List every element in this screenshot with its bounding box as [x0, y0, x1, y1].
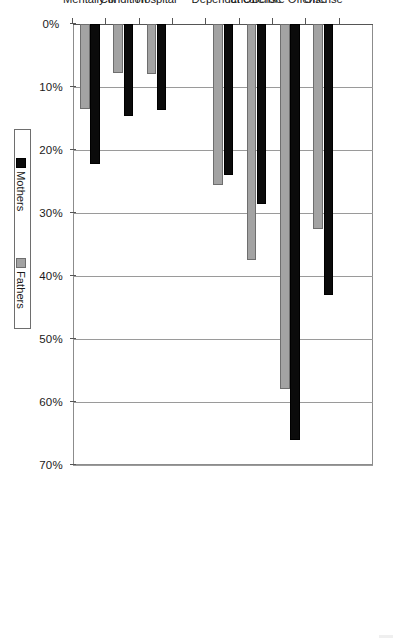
page-edge-artifact [379, 635, 393, 638]
bar-mothers-1 [324, 24, 334, 295]
axis-label-30%: 30% [31, 207, 71, 219]
gridline-60% [73, 402, 373, 403]
legend-swatch-fathers-icon [16, 258, 26, 268]
bar-chart-figure: 0%10%20%30%40%50%60%70%SUBSTANCE USE% Us… [0, 0, 395, 640]
category-tick-6 [139, 18, 140, 24]
axis-label-70%: 70% [31, 459, 71, 471]
legend-entry-fathers: Fathers [15, 258, 27, 309]
bar-fathers-1 [314, 24, 324, 229]
category-tick-1 [305, 18, 306, 24]
category-tick-0 [339, 18, 340, 24]
axis-label-50%: 50% [31, 333, 71, 345]
bar-fathers-7 [114, 24, 124, 73]
rotated-figure-wrapper: 0%10%20%30%40%50%60%70%SUBSTANCE USE% Us… [0, 0, 395, 640]
bar-mothers-8 [90, 24, 100, 164]
category-tick-8 [72, 18, 73, 24]
legend-label-mothers: Mothers [15, 171, 27, 211]
bar-mothers-4 [224, 24, 234, 175]
bar-fathers-8 [80, 24, 90, 109]
bar-fathers-3 [247, 24, 257, 260]
bar-mothers-7 [124, 24, 134, 116]
category-tick-5 [172, 18, 173, 24]
category-tick-2 [272, 18, 273, 24]
category-label-8: % Self-Reported Diagnosed Mentally Ill [15, 0, 165, 10]
bar-mothers-6 [157, 24, 167, 110]
category-tick-3 [239, 18, 240, 24]
bar-fathers-6 [147, 24, 157, 74]
bar-fathers-2 [280, 24, 290, 389]
axis-label-10%: 10% [31, 81, 71, 93]
axis-label-20%: 20% [31, 144, 71, 156]
gridline-50% [73, 339, 373, 340]
legend-swatch-mothers-icon [16, 158, 26, 168]
bar-mothers-2 [290, 24, 300, 440]
legend-label-fathers: Fathers [15, 271, 27, 309]
gridline-70% [73, 465, 373, 466]
axis-label-0%: 0% [31, 18, 71, 30]
bar-mothers-3 [257, 24, 267, 204]
axis-label-60%: 60% [31, 396, 71, 408]
chart-screenshot: 0%10%20%30%40%50%60%70%SUBSTANCE USE% Us… [0, 0, 395, 640]
axis-label-40%: 40% [31, 270, 71, 282]
bar-fathers-4 [214, 24, 224, 185]
chart-legend: MothersFathers [14, 129, 31, 329]
category-tick-4 [205, 18, 206, 24]
category-tick-7 [105, 18, 106, 24]
legend-entry-mothers: Mothers [15, 158, 27, 211]
